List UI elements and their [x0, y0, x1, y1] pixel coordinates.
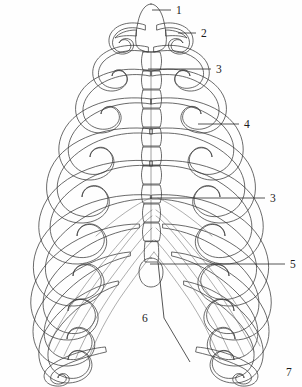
label-7: 7 [286, 366, 292, 378]
label-1-text: 1 [176, 4, 182, 16]
label-4-text: 4 [244, 118, 250, 130]
label-7-text: 7 [286, 366, 292, 378]
label-3-upper-text: 3 [216, 63, 222, 75]
label-6-text: 6 [142, 312, 148, 324]
label-2-text: 2 [201, 27, 207, 39]
rib-cage-figure: 1 2 3 4 3 5 [0, 0, 302, 387]
rib-cage-illustration: 1 2 3 4 3 5 [0, 0, 302, 387]
label-3-lower-text: 3 [270, 192, 276, 204]
label-5-text: 5 [290, 258, 296, 270]
